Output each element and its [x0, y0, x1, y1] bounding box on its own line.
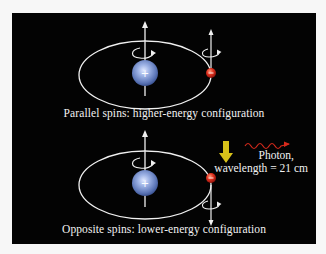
top-electron-spin-arrowhead-icon — [209, 29, 214, 35]
photon-label: Photon, wavelength = 21 cm — [212, 149, 308, 175]
diagram-graphics: + + — [12, 13, 316, 244]
bottom-caption: Opposite spins: lower-energy configurati… — [12, 223, 316, 235]
top-proton-symbol: + — [141, 68, 149, 79]
photon-label-line1: Photon, — [212, 149, 308, 162]
top-configuration: + — [79, 21, 222, 109]
bottom-configuration: + — [79, 130, 222, 226]
top-proton-spin-arrowhead-icon — [142, 21, 148, 28]
bottom-proton-spin-arrowhead-icon — [142, 130, 148, 137]
hydrogen-spin-flip-diagram: + + Parallel — [12, 13, 316, 244]
top-proton-rotation-icon — [133, 48, 155, 58]
photon-label-line2: wavelength = 21 cm — [212, 162, 308, 175]
bottom-proton-symbol: + — [141, 178, 149, 189]
bottom-proton-rotation-icon — [133, 158, 155, 168]
top-caption: Parallel spins: higher-energy configurat… — [12, 107, 316, 119]
photon-wave-icon — [245, 144, 289, 149]
